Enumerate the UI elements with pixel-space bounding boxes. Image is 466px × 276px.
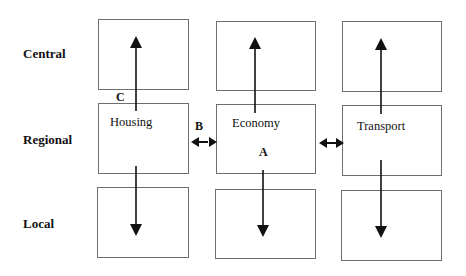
- marker-b: B: [195, 119, 203, 134]
- box-economy-local: [215, 189, 316, 259]
- marker-c: C: [116, 90, 125, 105]
- box-transport-regional: Transport: [342, 105, 442, 176]
- box-economy-regional: Economy: [216, 104, 316, 174]
- marker-a: A: [259, 145, 268, 160]
- box-transport-local: [341, 190, 442, 261]
- box-label-transport: Transport: [357, 119, 405, 134]
- bidirectional-arrow-icon: [319, 138, 344, 148]
- row-label-local: Local: [23, 216, 54, 232]
- box-housing-local: [97, 187, 189, 258]
- governance-diagram: Central Regional Local Housing Economy T…: [0, 0, 466, 276]
- box-transport-central: [342, 21, 442, 92]
- bidirectional-arrow-icon: [191, 137, 217, 147]
- box-label-economy: Economy: [232, 116, 280, 131]
- box-economy-central: [216, 21, 316, 91]
- row-label-central: Central: [23, 46, 66, 62]
- box-housing-regional: Housing: [98, 103, 189, 174]
- box-housing-central: [98, 19, 189, 90]
- row-label-regional: Regional: [23, 132, 72, 148]
- box-label-housing: Housing: [110, 115, 152, 130]
